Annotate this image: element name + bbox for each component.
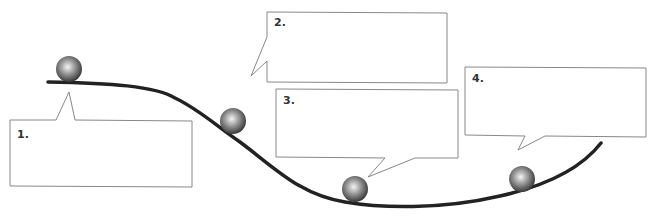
callout-box-3 [276,89,458,177]
callout-label-3: 3. [283,94,295,107]
callout-box-1 [10,92,192,187]
diagram-canvas: 1. 2. 3. 4. [0,0,657,218]
ball-2 [220,108,246,134]
ball-1 [56,56,82,82]
callout-box-4 [465,67,646,150]
callout-label-1: 1. [17,128,29,141]
ball-3 [342,176,368,202]
callout-label-4: 4. [472,72,484,85]
ball-4 [509,166,535,192]
callout-label-2: 2. [274,16,286,29]
